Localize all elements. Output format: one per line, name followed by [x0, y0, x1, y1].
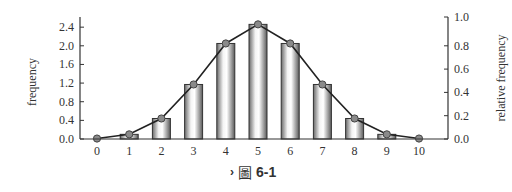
- x-tick-label: 7: [319, 144, 325, 158]
- figure-caption: › 圖 6-1: [230, 162, 276, 182]
- data-point-marker: [287, 40, 294, 47]
- y-tick-label: 0.4: [59, 113, 74, 127]
- y2-tick-label: 0.2: [454, 109, 469, 123]
- y-tick-label: 0.0: [59, 132, 74, 146]
- y-axis-title: frequency: [25, 58, 39, 106]
- y-axis-left: 0.00.40.81.21.62.02.4: [59, 17, 84, 146]
- y2-tick-label: 0.6: [454, 62, 469, 76]
- data-point-marker: [158, 115, 165, 122]
- y-axis-right: 0.00.20.40.60.81.0: [444, 10, 469, 146]
- data-point-marker: [319, 81, 326, 88]
- x-tick-label: 9: [384, 144, 390, 158]
- figure-number: 6-1: [256, 164, 276, 180]
- data-point-marker: [190, 81, 197, 88]
- y2-tick-label: 1.0: [454, 10, 469, 24]
- chevron-right-icon: ›: [230, 165, 234, 179]
- y2-tick-label: 0.8: [454, 39, 469, 53]
- y-tick-label: 2.0: [59, 39, 74, 53]
- bar: [249, 24, 267, 139]
- y2-axis-title: relative frequency: [494, 35, 508, 122]
- y2-tick-label: 0.0: [454, 132, 469, 146]
- data-point-marker: [126, 131, 133, 138]
- data-point-marker: [222, 40, 229, 47]
- bar: [185, 84, 203, 139]
- bar: [281, 43, 299, 139]
- data-point-marker: [383, 131, 390, 138]
- x-tick-label: 8: [352, 144, 358, 158]
- y-tick-label: 0.8: [59, 95, 74, 109]
- x-tick-label: 6: [287, 144, 293, 158]
- x-axis: 012345678910: [80, 139, 448, 158]
- x-tick-label: 4: [223, 144, 229, 158]
- x-tick-label: 5: [255, 144, 261, 158]
- data-point-marker: [351, 115, 358, 122]
- y-tick-label: 2.4: [59, 20, 74, 34]
- y2-tick-label: 0.4: [454, 85, 469, 99]
- bar: [313, 84, 331, 139]
- data-point-marker: [254, 21, 261, 28]
- x-tick-label: 1: [126, 144, 132, 158]
- figure-glyph: 圖: [238, 162, 252, 182]
- y-tick-label: 1.6: [59, 57, 74, 71]
- bar: [217, 43, 235, 139]
- x-tick-label: 10: [413, 144, 425, 158]
- x-tick-label: 3: [191, 144, 197, 158]
- x-tick-label: 2: [158, 144, 164, 158]
- x-tick-label: 0: [94, 144, 100, 158]
- y-tick-label: 1.2: [59, 76, 74, 90]
